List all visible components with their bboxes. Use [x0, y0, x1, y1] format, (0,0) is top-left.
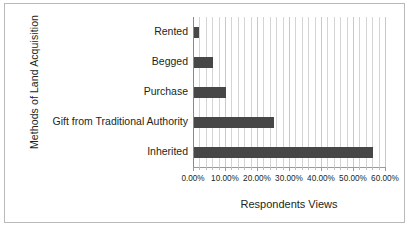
tick-major — [353, 167, 354, 171]
tick-minor — [359, 167, 360, 170]
bar — [194, 147, 373, 158]
gridline-major — [385, 17, 386, 167]
tick-minor — [263, 167, 264, 170]
gridline-minor — [238, 17, 239, 167]
gridline-major — [289, 17, 290, 167]
tick-minor — [219, 167, 220, 170]
tick-minor — [315, 167, 316, 170]
tick-major — [289, 167, 290, 171]
gridline-minor — [244, 17, 245, 167]
bar — [194, 87, 226, 98]
tick-minor — [366, 167, 367, 170]
x-axis-title: Respondents Views — [193, 198, 385, 210]
tick-major — [257, 167, 258, 171]
category-label: Begged — [152, 56, 188, 67]
category-label: Rented — [154, 26, 188, 37]
tick-minor — [295, 167, 296, 170]
gridline-minor — [315, 17, 316, 167]
gridline-minor — [283, 17, 284, 167]
tick-label: 10.00% — [211, 174, 239, 183]
tick-minor — [302, 167, 303, 170]
tick-minor — [334, 167, 335, 170]
tick-minor — [347, 167, 348, 170]
gridline-major — [353, 17, 354, 167]
category-label: Inherited — [147, 146, 188, 157]
tick-major — [321, 167, 322, 171]
bar — [194, 57, 213, 68]
chart-figure: Methods of Land Acquisition InheritedGif… — [0, 0, 410, 228]
gridline-minor — [366, 17, 367, 167]
category-label: Purchase — [144, 86, 188, 97]
gridline-minor — [347, 17, 348, 167]
gridline-minor — [270, 17, 271, 167]
tick-label: 30.00% — [275, 174, 303, 183]
tick-minor — [308, 167, 309, 170]
bar — [194, 117, 274, 128]
tick-major — [385, 167, 386, 171]
tick-minor — [199, 167, 200, 170]
tick-label: 60.00% — [371, 174, 399, 183]
tick-minor — [270, 167, 271, 170]
tick-minor — [372, 167, 373, 170]
category-label: Gift from Traditional Authority — [53, 116, 188, 127]
gridline-minor — [359, 17, 360, 167]
gridline-minor — [302, 17, 303, 167]
gridline-minor — [231, 17, 232, 167]
gridline-minor — [334, 17, 335, 167]
tick-minor — [327, 167, 328, 170]
tick-minor — [283, 167, 284, 170]
gridline-major — [257, 17, 258, 167]
x-axis-tick-labels: 0.00%10.00%20.00%30.00%40.00%50.00%60.00… — [193, 174, 385, 186]
gridline-minor — [379, 17, 380, 167]
tick-minor — [244, 167, 245, 170]
gridline-minor — [372, 17, 373, 167]
tick-major — [225, 167, 226, 171]
tick-minor — [231, 167, 232, 170]
gridline-major — [321, 17, 322, 167]
gridline-minor — [308, 17, 309, 167]
plot-area — [193, 17, 385, 167]
tick-minor — [206, 167, 207, 170]
tick-minor — [340, 167, 341, 170]
gridline-minor — [276, 17, 277, 167]
bar — [194, 27, 199, 38]
tick-minor — [276, 167, 277, 170]
gridline-minor — [251, 17, 252, 167]
category-labels: InheritedGift from Traditional Authority… — [0, 17, 188, 167]
gridline-minor — [340, 17, 341, 167]
tick-label: 40.00% — [307, 174, 335, 183]
tick-label: 0.00% — [181, 174, 204, 183]
tick-minor — [251, 167, 252, 170]
gridline-minor — [327, 17, 328, 167]
gridline-minor — [263, 17, 264, 167]
tick-label: 20.00% — [243, 174, 271, 183]
tick-minor — [379, 167, 380, 170]
tick-label: 50.00% — [339, 174, 367, 183]
tick-minor — [212, 167, 213, 170]
tick-major — [193, 167, 194, 171]
tick-minor — [238, 167, 239, 170]
gridline-minor — [295, 17, 296, 167]
x-axis-ticks — [193, 167, 385, 172]
